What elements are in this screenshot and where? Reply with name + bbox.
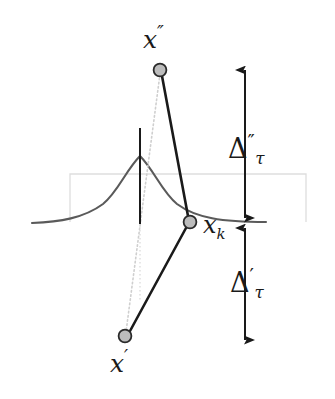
delta-symbol-lower: Δ xyxy=(230,267,250,298)
delta-upper-subscript: τ xyxy=(255,148,264,168)
guide-line-xpp-xp xyxy=(126,74,160,332)
diagram-vector-layer xyxy=(0,0,335,399)
x-k-subscript: k xyxy=(217,225,226,243)
delta-symbol-upper: Δ xyxy=(228,133,248,164)
x-double-prime-mark: ″ xyxy=(157,22,164,43)
delta-tau-prime-label: Δ′τ xyxy=(230,266,264,301)
delta-tau-double-prime-label: Δ″τ xyxy=(228,132,265,167)
node-x-k xyxy=(184,216,197,229)
x-k-label: xk xyxy=(203,213,226,242)
x-prime-mark: ′ xyxy=(124,346,129,367)
seg-xpp-to-xk xyxy=(162,76,188,216)
node-x-prime xyxy=(119,330,132,343)
x-k-base: x xyxy=(203,211,217,239)
x-double-prime-base: x xyxy=(143,25,157,54)
x-double-prime-label: x″ xyxy=(143,24,164,52)
diagram-canvas: x″ xk x′ Δ″τ Δ′τ xyxy=(0,0,335,399)
x-prime-label: x′ xyxy=(110,348,129,376)
x-prime-base: x xyxy=(110,349,124,378)
delta-lower-subscript: τ xyxy=(254,282,263,302)
seg-xk-to-xp xyxy=(130,228,186,331)
node-x-double-prime xyxy=(154,64,167,77)
